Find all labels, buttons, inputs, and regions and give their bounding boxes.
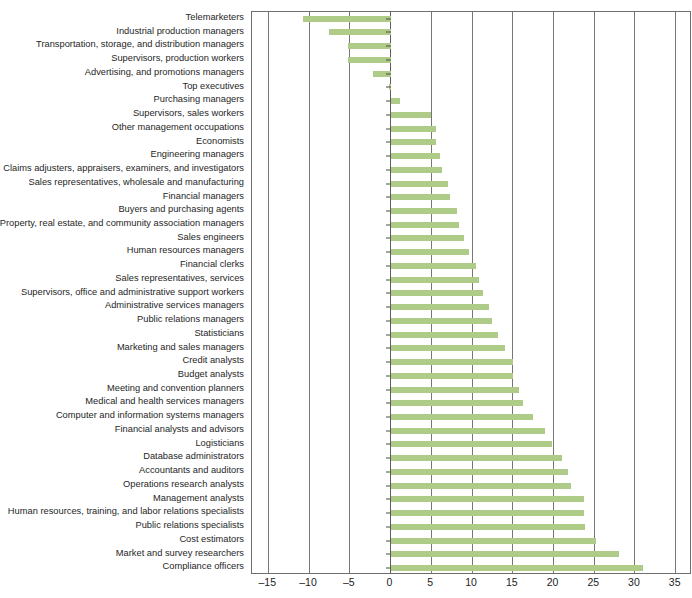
bar[interactable]: [391, 565, 644, 571]
bar[interactable]: [348, 57, 390, 63]
x-tick-label: 15: [506, 576, 518, 588]
category-tick: [386, 416, 391, 417]
bar-row: [252, 39, 690, 53]
bar[interactable]: [391, 551, 620, 557]
bar-row: [252, 108, 690, 122]
bar-row: [252, 328, 690, 342]
category-label: Human resources managers: [127, 244, 244, 258]
bar-row: [252, 479, 690, 493]
bar[interactable]: [391, 510, 584, 516]
category-tick: [386, 444, 391, 445]
x-tick-label: 10: [465, 576, 477, 588]
bar-row: [252, 191, 690, 205]
bar-row: [252, 396, 690, 410]
bar-row: [252, 259, 690, 273]
bar[interactable]: [391, 414, 534, 420]
category-tick: [386, 362, 391, 363]
bar[interactable]: [329, 29, 390, 35]
category-label: Financial clerks: [180, 258, 244, 272]
category-tick: [386, 320, 391, 321]
bar-row: [252, 81, 690, 95]
category-label: Operations research analysts: [123, 478, 244, 492]
bar[interactable]: [391, 441, 552, 447]
bar[interactable]: [391, 208, 457, 214]
category-tick: [386, 142, 391, 143]
bar[interactable]: [391, 469, 569, 475]
bar[interactable]: [391, 538, 596, 544]
category-label: Human resources, training, and labor rel…: [8, 505, 244, 519]
x-tick-label: –5: [343, 576, 355, 588]
bar[interactable]: [391, 112, 432, 118]
category-tick: [386, 59, 391, 60]
category-label: Transportation, storage, and distributio…: [36, 38, 244, 52]
bar-row: [252, 534, 690, 548]
bar-row: [252, 300, 690, 314]
category-tick: [386, 73, 391, 74]
category-tick: [386, 265, 391, 266]
bar[interactable]: [391, 373, 513, 379]
bar[interactable]: [391, 387, 520, 393]
x-axis: –15–10–505101520253035: [251, 574, 691, 598]
bar[interactable]: [391, 222, 459, 228]
bar-row: [252, 149, 690, 163]
category-label: Purchasing managers: [154, 93, 244, 107]
x-tick-label: 25: [587, 576, 599, 588]
bar[interactable]: [391, 98, 401, 104]
bar[interactable]: [391, 304, 490, 310]
bar[interactable]: [391, 524, 586, 530]
bar[interactable]: [391, 277, 480, 283]
bar[interactable]: [391, 359, 513, 365]
category-label: Financial managers: [163, 190, 244, 204]
bar[interactable]: [391, 153, 441, 159]
bar[interactable]: [391, 345, 506, 351]
bar[interactable]: [391, 428, 546, 434]
bar[interactable]: [391, 235, 464, 241]
bar[interactable]: [391, 318, 493, 324]
plot-area: [251, 11, 691, 574]
bar[interactable]: [391, 167, 442, 173]
bar[interactable]: [391, 181, 448, 187]
bar[interactable]: [391, 496, 584, 502]
bar-row: [252, 273, 690, 287]
category-label: Logisticians: [195, 437, 244, 451]
bar[interactable]: [391, 332, 499, 338]
bar-row: [252, 94, 690, 108]
bar[interactable]: [391, 455, 563, 461]
bar[interactable]: [391, 126, 437, 132]
category-label: Other management occupations: [112, 121, 244, 135]
category-tick: [386, 183, 391, 184]
category-label: Supervisors, sales workers: [133, 107, 244, 121]
bar[interactable]: [391, 400, 524, 406]
category-tick: [386, 334, 391, 335]
category-label: Cost estimators: [179, 533, 244, 547]
category-label: Credit analysts: [183, 354, 245, 368]
category-label: Industrial production managers: [116, 25, 244, 39]
category-tick: [386, 375, 391, 376]
bar[interactable]: [348, 43, 390, 49]
bar[interactable]: [303, 16, 391, 22]
category-label: Buyers and purchasing agents: [118, 203, 244, 217]
category-tick: [386, 568, 391, 569]
category-label: Public relations managers: [137, 313, 244, 327]
category-tick: [386, 279, 391, 280]
x-tick-label: 0: [387, 576, 393, 588]
category-label: Telemarketers: [186, 11, 244, 25]
bar[interactable]: [391, 139, 437, 145]
bar[interactable]: [391, 290, 483, 296]
bar-row: [252, 383, 690, 397]
bar-row: [252, 136, 690, 150]
category-tick: [386, 114, 391, 115]
category-tick: [386, 526, 391, 527]
bar[interactable]: [391, 249, 469, 255]
bar[interactable]: [391, 263, 477, 269]
bar-row: [252, 67, 690, 81]
bar[interactable]: [391, 194, 450, 200]
category-label: Economists: [196, 135, 244, 149]
x-tick-label: 20: [547, 576, 559, 588]
category-label: Top executives: [183, 80, 245, 94]
category-label: Market and survey researchers: [116, 547, 244, 561]
bar[interactable]: [391, 483, 572, 489]
category-tick: [386, 403, 391, 404]
category-label: Computer and information systems manager…: [56, 409, 244, 423]
category-tick: [386, 211, 391, 212]
